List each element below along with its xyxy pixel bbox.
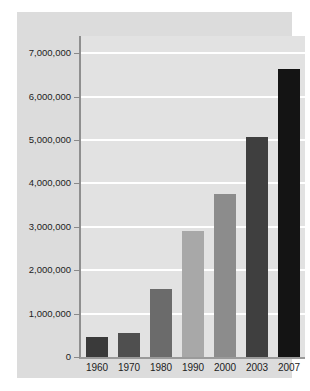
bar	[246, 137, 268, 357]
y-axis-tick-label: 3,000,000	[17, 221, 71, 232]
y-axis-tick-label: 6,000,000	[17, 91, 71, 102]
y-axis-tick	[74, 97, 80, 98]
y-axis-tick-label: 4,000,000	[17, 177, 71, 188]
y-axis-tick	[74, 53, 80, 54]
y-axis-tick-label: 0	[17, 351, 71, 362]
chart-page: 01,000,0002,000,0003,000,0004,000,0005,0…	[0, 0, 310, 391]
bar	[150, 289, 172, 357]
bar	[182, 231, 204, 357]
y-axis-tick	[74, 357, 80, 358]
gridline	[81, 52, 305, 54]
bar	[118, 333, 140, 357]
y-axis-tick	[74, 227, 80, 228]
x-axis-tick-label: 1990	[177, 362, 209, 373]
y-axis-tick-label: 1,000,000	[17, 308, 71, 319]
x-axis-tick-label: 2000	[209, 362, 241, 373]
chart-panel: 01,000,0002,000,0003,000,0004,000,0005,0…	[17, 12, 292, 378]
gridline	[81, 96, 305, 98]
x-axis-tick-label: 1980	[145, 362, 177, 373]
y-axis-tick	[74, 183, 80, 184]
y-axis-tick-label: 2,000,000	[17, 264, 71, 275]
bar	[278, 69, 300, 357]
gridline	[81, 226, 305, 228]
x-axis-line	[79, 357, 305, 359]
y-axis-tick-label: 7,000,000	[17, 47, 71, 58]
y-axis-line	[79, 36, 81, 358]
bar	[86, 337, 108, 357]
bar	[214, 194, 236, 357]
y-axis-tick-label: 5,000,000	[17, 134, 71, 145]
gridline	[81, 182, 305, 184]
y-axis-tick	[74, 140, 80, 141]
y-axis-tick	[74, 270, 80, 271]
y-axis-tick	[74, 314, 80, 315]
x-axis-tick-label: 2007	[273, 362, 305, 373]
x-axis-tick-label: 2003	[241, 362, 273, 373]
x-axis-tick-label: 1960	[81, 362, 113, 373]
x-axis-tick-label: 1970	[113, 362, 145, 373]
gridline	[81, 139, 305, 141]
